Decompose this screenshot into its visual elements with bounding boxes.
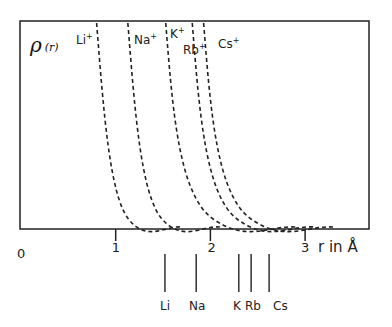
curve-label: Li+ <box>76 32 93 47</box>
curve-labels: Li+Na+K+Rb+Cs+ <box>76 26 239 57</box>
curve-label: Rb+ <box>183 42 206 57</box>
curve-Cs-ion <box>204 23 334 232</box>
reference-label: Cs <box>273 299 288 313</box>
x-axis-tick-labels: 0123 <box>17 240 309 261</box>
curve-Rb-ion <box>192 23 314 232</box>
tick-label: 3 <box>301 240 309 255</box>
chart: 0123 Li+Na+K+Rb+Cs+ LiNaKRbCs ρ(r) r in … <box>0 0 392 327</box>
reference-label: Rb <box>245 299 261 313</box>
curve-Li-ion <box>97 23 182 232</box>
reference-label: Li <box>160 299 170 313</box>
curve-label: Na+ <box>134 32 157 47</box>
reference-label: Na <box>189 299 205 313</box>
reference-markers: LiNaKRbCs <box>160 254 288 313</box>
y-axis-label: ρ(r) <box>29 33 59 57</box>
tick-label: 1 <box>112 240 120 255</box>
x-axis-label: r in Å <box>318 237 358 256</box>
tick-label: 2 <box>207 240 215 255</box>
reference-label: K <box>233 299 242 313</box>
curve-label: K+ <box>170 26 185 41</box>
density-curves <box>97 23 334 232</box>
tick-label: 0 <box>17 246 25 261</box>
curve-label: Cs+ <box>218 36 239 51</box>
